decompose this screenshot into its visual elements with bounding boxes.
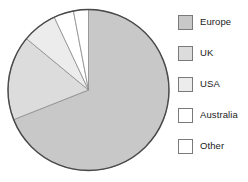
legend-label-europe: Europe [200, 17, 231, 27]
legend-item-other[interactable]: Other [178, 137, 248, 155]
legend-item-europe[interactable]: Europe [178, 13, 248, 31]
legend-swatch-uk [178, 46, 193, 61]
legend-label-australia: Australia [200, 110, 238, 120]
legend-item-uk[interactable]: UK [178, 44, 248, 62]
pie-chart-figure: Europe UK USA Australia Other [0, 0, 248, 182]
legend-swatch-australia [178, 108, 193, 123]
legend-label-uk: UK [200, 48, 213, 58]
legend-swatch-usa [178, 77, 193, 92]
pie-slice-group [8, 10, 169, 171]
legend-label-usa: USA [200, 79, 220, 89]
legend-swatch-europe [178, 15, 193, 30]
legend-label-other: Other [200, 141, 224, 151]
legend-swatch-other [178, 139, 193, 154]
pie-plot-area [0, 0, 178, 182]
legend-item-usa[interactable]: USA [178, 75, 248, 93]
pie-svg [0, 0, 178, 182]
chart-legend: Europe UK USA Australia Other [178, 0, 248, 182]
legend-item-australia[interactable]: Australia [178, 106, 248, 124]
